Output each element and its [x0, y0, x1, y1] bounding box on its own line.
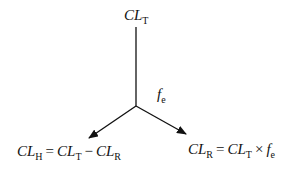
left-op: −: [82, 143, 96, 159]
edge-label-sub: e: [161, 94, 165, 105]
right-arrow: [136, 106, 186, 134]
right-t1-sub: T: [246, 149, 252, 160]
edge-label: fe: [157, 87, 166, 102]
left-t1-sub: T: [75, 151, 81, 162]
top-node-sub: T: [142, 15, 148, 26]
right-lhs-base: CL: [188, 141, 206, 157]
left-eq: =: [43, 143, 57, 159]
top-node-base: CL: [124, 7, 142, 23]
left-t2-base: CL: [96, 143, 114, 159]
right-node-formula: CLR=CLT×fe: [188, 142, 275, 157]
left-lhs-base: CL: [17, 143, 35, 159]
left-t1-base: CL: [57, 143, 75, 159]
right-lhs-sub: R: [206, 149, 213, 160]
right-t2-base: f: [266, 141, 270, 157]
right-t1-base: CL: [228, 141, 246, 157]
right-t2-sub: e: [271, 149, 275, 160]
top-node-label: CLT: [124, 8, 148, 23]
left-node-formula: CLH=CLT−CLR: [17, 144, 121, 159]
right-op: ×: [252, 141, 266, 157]
left-arrow: [89, 106, 136, 138]
left-lhs-sub: H: [35, 151, 42, 162]
left-t2-sub: R: [114, 151, 121, 162]
split-diagram: CLT fe CLH=CLT−CLR CLR=CLT×fe: [0, 0, 290, 172]
right-eq: =: [213, 141, 227, 157]
